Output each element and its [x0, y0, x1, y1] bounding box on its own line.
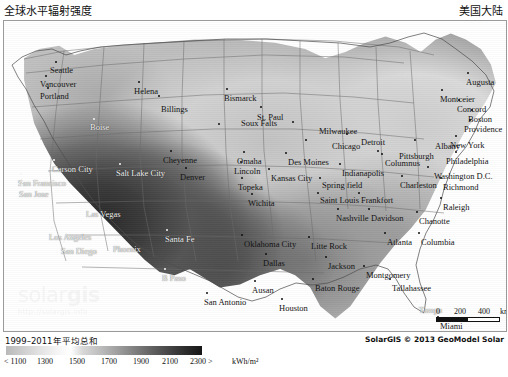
city-label: Cheyenne — [163, 156, 197, 165]
city-label: Davidson — [371, 214, 404, 223]
city-label: Columnus — [385, 159, 420, 168]
city-label: Helena — [134, 87, 158, 96]
city-label: Baton Rouge — [315, 284, 360, 293]
city-label: San Francisco — [18, 179, 66, 188]
city-label: Ausan — [252, 286, 274, 295]
city-label: Seattle — [50, 66, 73, 75]
legend-unit: kWh/m² — [232, 357, 258, 366]
legend-color-bar — [6, 346, 202, 355]
city-label: Atlanta — [387, 238, 412, 247]
solar-irradiation-map[interactable]: SeattleVancouverPortlandHelenaBillingsBi… — [3, 20, 507, 332]
legend-tick: 1300 — [37, 357, 53, 366]
city-label: Phoenix — [113, 245, 141, 254]
city-label: Denver — [180, 173, 205, 182]
city-label: San Antonio — [204, 298, 246, 307]
watermark-brand-secondary: gis — [67, 283, 100, 307]
region-subtitle: 美国大陆 — [459, 2, 503, 18]
city-label: Chicago — [332, 142, 360, 151]
city-label: Detroit — [361, 138, 385, 147]
city-label: Indianapolis — [342, 169, 384, 178]
map-scale-bar: 0 200 400 km — [436, 307, 504, 322]
city-label: Houston — [279, 304, 308, 313]
city-label: Raleigh — [443, 203, 469, 212]
city-label: Tallahassee — [392, 284, 431, 293]
legend-title: 1999–2011年平均总和 — [5, 334, 98, 346]
city-label: Miami — [440, 322, 463, 331]
city-label: Charleston — [400, 181, 437, 190]
legend-tick: < 1100 — [4, 357, 26, 366]
city-label: Des Moines — [288, 158, 329, 167]
city-label: Portland — [40, 92, 69, 101]
city-label: Los Angeles — [49, 233, 91, 242]
city-label: B Paso — [162, 274, 186, 283]
city-label: Richmond — [443, 183, 478, 192]
watermark-brand-primary: solar — [18, 283, 67, 307]
page-header: 全球水平辐射强度 美国大陆 — [0, 0, 508, 20]
city-label: Dallas — [263, 259, 285, 268]
city-label: Boston — [468, 115, 492, 124]
copyright-notice: SolarGIS © 2013 GeoModel Solar — [365, 335, 504, 344]
city-label: Spring field — [322, 181, 362, 190]
city-label: Augusta — [466, 78, 494, 87]
city-label: Jackson — [328, 262, 355, 271]
legend-tick: 1500 — [69, 357, 85, 366]
city-label: Wichita — [248, 199, 275, 208]
scale-unit: km — [500, 307, 507, 316]
city-label: Washington D.C. — [434, 172, 493, 181]
city-label: Bismarck — [224, 94, 257, 103]
legend-tick: 1700 — [101, 357, 117, 366]
scale-bar-graphic — [436, 317, 500, 322]
watermark-url: http://solargis.info — [18, 308, 100, 316]
legend-tick: 2100 — [162, 357, 178, 366]
city-label: Carson City — [52, 165, 93, 174]
city-label: Philadelphia — [446, 157, 489, 166]
city-label: Nashville — [336, 214, 369, 223]
city-label: Las Vegas — [86, 210, 121, 219]
city-label: Columbia — [421, 238, 455, 247]
city-label: Vancouver — [40, 80, 76, 89]
city-label: Topeka — [238, 183, 263, 192]
city-label: Kansas City — [271, 174, 312, 183]
legend-tick-labels: < 1100130015001700190021002300 >kWh/m² — [0, 357, 300, 369]
scale-tick-zero: 0 — [436, 307, 440, 316]
city-label: Chanotte — [419, 217, 450, 226]
city-label: Boise — [90, 123, 109, 132]
scale-tick-max: 400 — [478, 307, 490, 316]
city-label: Providence — [464, 125, 502, 134]
city-label: Santa Fe — [165, 235, 195, 244]
city-label: Billings — [161, 105, 188, 114]
city-label: San Diego — [61, 247, 97, 256]
solargis-watermark: solargis http://solargis.info — [18, 283, 100, 316]
city-label: Soux Falts — [241, 119, 277, 128]
city-label: Salt Lake City — [116, 169, 165, 178]
legend-tick: 2300 > — [190, 357, 213, 366]
page-title: 全球水平辐射强度 — [4, 2, 92, 18]
city-label: Milwaukee — [319, 127, 357, 136]
city-label: Saint Louis — [320, 196, 359, 205]
city-label: Lincoln — [234, 167, 260, 176]
city-label: Litte Rock — [311, 242, 347, 251]
map-footer: 1999–2011年平均总和 < 11001300150017001900210… — [0, 332, 508, 377]
scale-tick-mid: 200 — [454, 307, 466, 316]
city-label: Frankfort — [361, 196, 393, 205]
city-label: Oklahoma City — [244, 240, 296, 249]
city-label: New York — [450, 141, 484, 150]
city-label: San Jose — [19, 190, 49, 199]
legend-tick: 1900 — [133, 357, 149, 366]
